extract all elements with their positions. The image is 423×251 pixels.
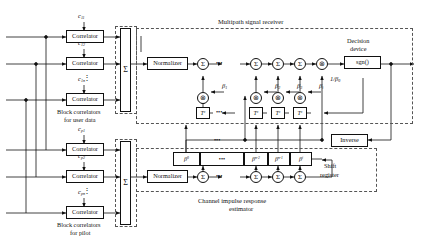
code-label-cp1: cp1 [78,126,85,133]
estimator-adder-2: Σ [250,171,262,183]
decision-device-label-2: device [350,46,366,52]
summing-bus-pilot: Σ [120,141,131,225]
adder-receiver-3: Σ [272,58,284,70]
code-label-c12: c12 [78,40,85,47]
channel-estimator-title-1: Channel impulse response [198,198,266,205]
estimator-adder-3: Σ [272,171,284,183]
normalizer-receiver[interactable]: Normalizer [147,57,188,70]
correlator-user-2[interactable]: Correlator [66,57,104,70]
receiver-chain-ellipsis: ••• [216,60,222,66]
adder-receiver-4: Σ [294,58,306,70]
delay-element-2: Tc [249,107,263,119]
shift-register-cell-beta-n-1: βn-1 [268,152,290,166]
adder-receiver-2: Σ [250,58,262,70]
estimator-adder-4: Σ [294,171,306,183]
normalizer-estimator[interactable]: Normalizer [147,170,188,183]
gain-label-inverse-beta0: 1/β0 [330,76,340,83]
pilot-correlator-caption-2: for pilot [70,230,90,236]
code-label-cp2: cp2 [78,153,85,160]
shift-register-cell-beta-n-2: βn-2 [244,152,268,166]
user-correlator-caption-2: for user data [64,117,95,123]
shift-register-cell-ellipsis: ••• [200,152,244,166]
tap-multiplier-1: ⊗ [197,92,209,104]
code-label-c11: c11 [78,13,85,20]
estimator-adder-1: Σ [197,171,209,183]
shift-register-cell-beta-i: βi [290,152,312,166]
delay-element-1: Tc [196,107,210,119]
correlator-user-1[interactable]: Correlator [66,30,104,43]
code-label-cpn: cpn [78,189,85,196]
beta-tap-label-2: β2 [275,83,280,90]
tap-multiplier-3: ⊗ [272,92,284,104]
beta-tap-label-3: β3 [297,83,302,90]
beta-tap-label-1: β1 [222,83,227,90]
channel-estimator-title-2: estimator [229,206,253,213]
correlator-pilot-2[interactable]: Correlator [66,170,104,183]
block-diagram-canvas: Multipath signal receiver Channel impuls… [0,0,423,251]
multipath-receiver-title: Multipath signal receiver [218,19,283,26]
correlator-pilot-n[interactable]: Correlator [66,206,104,219]
delay-chain-ellipsis: ••• [216,109,222,115]
correlator-user-n[interactable]: Correlator [66,93,104,106]
tap-multiplier-2: ⊗ [250,92,262,104]
pilot-correlator-caption-1: Block correlators [57,222,101,228]
beta-tap-label-4: βi [319,83,323,90]
inverse-block[interactable]: Inverse [331,134,368,147]
summing-bus-user: Σ [120,28,131,112]
decision-device-label-1: Decision [347,38,369,44]
shift-register-cell-beta0: β0 [173,152,200,166]
tap-multiplier-4: ⊗ [294,92,306,104]
decision-device-sgn[interactable]: sgn() [344,56,381,69]
correlator-pilot-1[interactable]: Correlator [66,143,104,156]
estimator-chain-ellipsis: ••• [216,173,222,179]
delay-element-3: Tc [271,107,285,119]
shift-register-top-ellipsis: ••• [214,137,220,143]
code-label-c1n: c1n [78,76,85,83]
shift-register-label-2: register [320,172,339,178]
shift-register-label-1: Shift [324,163,336,169]
gain-multiplier-inverse-beta0: ⊗ [316,58,328,70]
user-correlator-caption-1: Block correlators [57,109,101,115]
delay-element-4: Tc [293,107,307,119]
adder-receiver-1: Σ [197,58,209,70]
